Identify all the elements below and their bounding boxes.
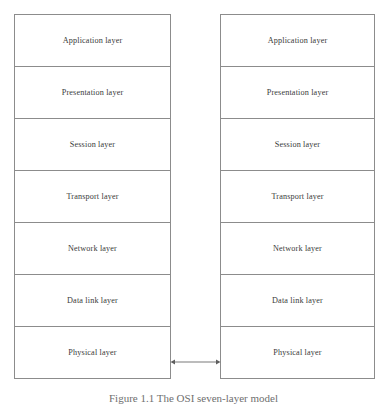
left-protocol-stack: Application layer Presentation layer Ses…	[14, 14, 171, 379]
layer-row: Data link layer	[221, 275, 374, 327]
layer-label: Presentation layer	[62, 88, 124, 97]
osi-model-diagram: Application layer Presentation layer Ses…	[0, 0, 387, 404]
layer-row: Presentation layer	[221, 67, 374, 119]
layer-label: Transport layer	[66, 192, 118, 201]
layer-label: Application layer	[268, 36, 328, 45]
layer-row: Network layer	[15, 223, 170, 275]
layer-row: Session layer	[221, 119, 374, 171]
physical-layer-link-arrow-icon	[170, 355, 221, 369]
layer-row: Transport layer	[15, 171, 170, 223]
layer-row: Physical layer	[15, 327, 170, 378]
layer-row: Network layer	[221, 223, 374, 275]
layer-row: Data link layer	[15, 275, 170, 327]
layer-label: Session layer	[70, 140, 115, 149]
right-protocol-stack: Application layer Presentation layer Ses…	[220, 14, 375, 379]
figure-caption: Figure 1.1 The OSI seven-layer model	[0, 392, 387, 404]
layer-label: Presentation layer	[267, 88, 329, 97]
layer-row: Application layer	[15, 15, 170, 67]
layer-label: Data link layer	[67, 296, 118, 305]
layer-label: Data link layer	[272, 296, 323, 305]
layer-row: Presentation layer	[15, 67, 170, 119]
layer-label: Network layer	[68, 244, 117, 253]
layer-label: Physical layer	[273, 348, 321, 357]
layer-label: Transport layer	[271, 192, 323, 201]
layer-row: Transport layer	[221, 171, 374, 223]
layer-label: Network layer	[273, 244, 322, 253]
layer-label: Physical layer	[68, 348, 116, 357]
layer-label: Application layer	[63, 36, 123, 45]
layer-row: Application layer	[221, 15, 374, 67]
layer-label: Session layer	[275, 140, 320, 149]
layer-row: Session layer	[15, 119, 170, 171]
layer-row: Physical layer	[221, 327, 374, 378]
